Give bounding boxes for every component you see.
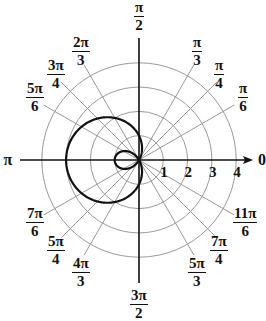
angle-label-denominator: 4 <box>52 75 60 91</box>
angle-label-denominator: 4 <box>215 251 223 267</box>
angle-label: 7π6 <box>26 205 44 239</box>
angle-label-numerator: 3π <box>130 288 148 305</box>
angle-label: 11π6 <box>233 205 257 239</box>
angle-label-numerator: 7π <box>26 206 44 223</box>
angle-label-denominator: 6 <box>31 98 39 114</box>
angle-label: 5π6 <box>26 80 44 114</box>
angle-label-denominator: 6 <box>241 223 249 239</box>
angle-label-denominator: 3 <box>193 52 201 68</box>
angle-label: 7π4 <box>210 233 228 267</box>
grid-ray <box>61 160 139 238</box>
angle-label-numerator: 5π <box>26 81 44 98</box>
angle-label-denominator: 6 <box>239 98 247 114</box>
angle-label-numerator: 3π <box>47 58 65 75</box>
angle-label-numerator: π <box>192 35 202 52</box>
angle-label: 3π4 <box>47 57 65 91</box>
angle-label: π <box>4 152 13 168</box>
angle-label-numerator: π <box>134 0 144 17</box>
angle-label-numerator: 4π <box>72 256 90 273</box>
grid-ray <box>61 82 139 160</box>
angle-label: π6 <box>238 80 248 114</box>
angle-label-denominator: 3 <box>77 52 85 68</box>
angle-label: 0 <box>258 152 266 168</box>
angle-label-numerator: 2π <box>72 35 90 52</box>
angle-label-denominator: 2 <box>135 17 143 33</box>
radial-tick-2: 2 <box>185 165 193 180</box>
angle-label: π3 <box>192 34 202 68</box>
angle-label-denominator: 4 <box>215 75 223 91</box>
radial-tick-3: 3 <box>209 165 217 180</box>
angle-label: 3π2 <box>130 287 148 321</box>
angle-label: 5π4 <box>47 233 65 267</box>
angle-label: π2 <box>134 0 144 33</box>
angle-label: 5π3 <box>188 255 206 289</box>
angle-label: π4 <box>214 57 224 91</box>
angle-label-numerator: 5π <box>188 256 206 273</box>
grid-ray <box>139 160 217 238</box>
angle-label: 4π3 <box>72 255 90 289</box>
angle-label-numerator: 7π <box>210 234 228 251</box>
angle-label-denominator: 6 <box>31 223 39 239</box>
angle-label-denominator: 2 <box>135 305 143 321</box>
angle-label-numerator: 11π <box>233 206 257 223</box>
angle-label-numerator: π <box>238 81 248 98</box>
angle-label: 2π3 <box>72 34 90 68</box>
radial-tick-1: 1 <box>160 165 168 180</box>
angle-label-numerator: π <box>214 58 224 75</box>
polar-plot <box>0 0 266 321</box>
angle-label-denominator: 4 <box>52 251 60 267</box>
grid-ray <box>139 82 217 160</box>
radial-tick-4: 4 <box>233 165 241 180</box>
angle-label-numerator: 5π <box>47 234 65 251</box>
angle-label-denominator: 3 <box>77 273 85 289</box>
angle-label-denominator: 3 <box>193 273 201 289</box>
